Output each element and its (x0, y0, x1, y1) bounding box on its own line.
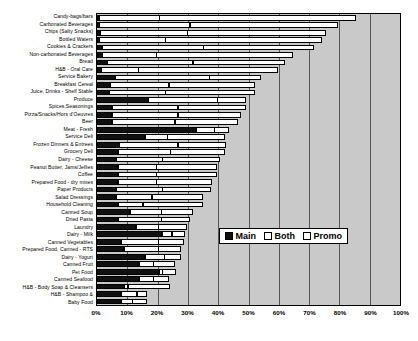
bar-segment-main (97, 261, 139, 267)
bar-segment-both (118, 149, 171, 155)
bar-row (97, 134, 400, 141)
category-label: Prepared Food - dry mixes (0, 178, 96, 186)
bar-stack (97, 82, 256, 88)
x-axis-tick: 10% (120, 309, 132, 316)
bar-segment-promo (164, 254, 181, 260)
bar-segment-main (97, 194, 117, 200)
bar-row (97, 119, 400, 126)
category-label: Peanut Butter, Jams/Jellies (0, 163, 96, 171)
bar-stack (97, 254, 182, 260)
bar-segment-main (97, 127, 197, 133)
bar-segment-promo (162, 157, 220, 163)
gridline (400, 14, 401, 305)
bar-row (97, 283, 400, 290)
legend-swatch-promo (303, 232, 311, 240)
bar-segment-main (97, 82, 111, 88)
bar-stack (97, 187, 212, 193)
bar-segment-both (109, 90, 167, 96)
bar-segment-both (145, 254, 165, 260)
category-label: Canned Seafood (0, 276, 96, 284)
bar-segment-both (162, 231, 173, 237)
bar-segment-both (119, 142, 178, 148)
category-label: Produce (0, 96, 96, 104)
bar-segment-both (112, 112, 179, 118)
bar-segment-both (121, 299, 133, 305)
bar-segment-main (97, 209, 130, 215)
bar-segment-promo (128, 284, 170, 290)
bar-segment-both (118, 164, 157, 170)
bar-row (97, 253, 400, 260)
bar-segment-promo (172, 231, 186, 237)
category-label: Baby Food (0, 299, 96, 307)
bar-segment-both (121, 239, 159, 245)
bar-row (97, 290, 400, 297)
bar-segment-both (112, 105, 179, 111)
bar-row (97, 201, 400, 208)
bar-row (97, 298, 400, 305)
x-axis-tick: 30% (181, 309, 193, 316)
bar-row (97, 260, 400, 267)
chart-legend: MainBothPromo (219, 228, 348, 244)
bar-segment-promo (137, 291, 148, 297)
bar-segment-main (97, 239, 121, 245)
bar-segment-both (148, 97, 218, 103)
x-axis-tick: 80% (334, 309, 346, 316)
category-label: H&B - Body Soap & Cleansers (0, 284, 96, 292)
bar-segment-promo (209, 75, 261, 81)
bar-segment-main (97, 97, 149, 103)
bar-stack (97, 149, 226, 155)
bar-segment-promo (165, 37, 321, 43)
bar-row (97, 21, 400, 28)
bar-segment-both (116, 157, 163, 163)
bar-stack (97, 231, 186, 237)
category-label: Bottled Waters (0, 36, 96, 44)
bar-segment-promo (158, 224, 187, 230)
category-label: Prepared Food, Canned - RTS (0, 246, 96, 254)
category-label: Breakfast Cereal (0, 81, 96, 89)
bar-row (97, 163, 400, 170)
x-axis-tick: 40% (212, 309, 224, 316)
category-label: Chips (Salty Snacks) (0, 28, 96, 36)
bar-stack (97, 22, 339, 28)
bar-segment-main (97, 224, 136, 230)
bar-stack (97, 261, 176, 267)
bar-segment-both (107, 60, 193, 66)
category-label: Dried Pasta (0, 216, 96, 224)
category-label: Grocery Deli (0, 148, 96, 156)
bar-segment-promo (169, 82, 255, 88)
bar-segment-both (124, 246, 159, 252)
bar-segment-promo (178, 112, 242, 118)
bar-stack (97, 157, 221, 163)
bar-segment-both (102, 52, 157, 58)
bar-segment-main (97, 164, 118, 170)
bar-segment-promo (156, 172, 217, 178)
bar-segment-main (97, 291, 121, 297)
bar-row (97, 126, 400, 133)
bar-segment-main (97, 231, 162, 237)
bar-stack (97, 97, 247, 103)
bar-segment-both (115, 75, 210, 81)
bar-segment-both (118, 172, 157, 178)
bar-segment-main (97, 134, 145, 140)
bar-row (97, 104, 400, 111)
bar-row (97, 59, 400, 66)
bar-segment-main (97, 217, 118, 223)
legend-swatch-main (225, 232, 233, 240)
bar-segment-both (99, 15, 160, 21)
bar-stack (97, 90, 256, 96)
bar-stack (97, 239, 185, 245)
bar-segment-promo (170, 149, 225, 155)
stacked-bar-chart: Candy-bags/barsCarbonated BeveragesChips… (0, 0, 418, 341)
bar-segment-main (97, 157, 117, 163)
category-label: Salad Dressings (0, 193, 96, 201)
bar-row (97, 156, 400, 163)
category-label: Pet Food (0, 269, 96, 277)
bar-segment-main (97, 90, 109, 96)
x-axis-tick: 0% (92, 309, 101, 316)
bar-segment-both (118, 202, 144, 208)
bar-stack (97, 105, 247, 111)
bar-row (97, 51, 400, 58)
category-label: Service Bakery (0, 73, 96, 81)
bar-stack (97, 269, 177, 275)
legend-entry-both: Both (264, 232, 295, 241)
